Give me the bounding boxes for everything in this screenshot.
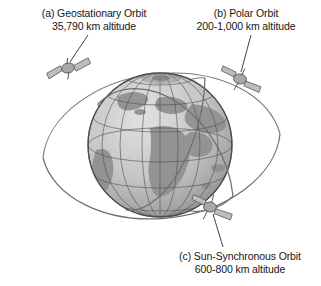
- solar-panel-right: [73, 58, 92, 72]
- leader-line-b: [241, 35, 251, 72]
- label-b-line1: (b) Polar Orbit: [172, 7, 320, 20]
- solar-panel-left: [46, 66, 64, 80]
- label-a-line1: (a) Geostationary Orbit: [14, 7, 174, 20]
- label-polar-orbit: (b) Polar Orbit 200-1,000 km altitude: [172, 7, 320, 33]
- satellite-geostationary: [44, 53, 93, 84]
- label-sun-synchronous-orbit: (c) Sun-Synchronous Orbit 600-800 km alt…: [160, 250, 320, 276]
- label-b-line2: 200-1,000 km altitude: [172, 20, 320, 33]
- satellite-body: [60, 62, 75, 75]
- orbit-diagram-svg: [0, 0, 321, 286]
- label-c-line2: 600-800 km altitude: [160, 263, 320, 276]
- label-a-line2: 35,790 km altitude: [14, 20, 174, 33]
- satellite-polar: [218, 65, 263, 95]
- label-c-line1: (c) Sun-Synchronous Orbit: [160, 250, 320, 263]
- leader-line-c: [213, 214, 223, 247]
- solar-panel-left: [220, 66, 236, 77]
- antenna-boom: [203, 210, 207, 219]
- leader-line-a: [70, 35, 88, 62]
- label-geostationary-orbit: (a) Geostationary Orbit 35,790 km altitu…: [14, 7, 174, 33]
- orbit-diagram-figure: (a) Geostationary Orbit 35,790 km altitu…: [0, 0, 321, 286]
- solar-panel-right: [214, 209, 233, 220]
- earth-globe: [88, 63, 232, 224]
